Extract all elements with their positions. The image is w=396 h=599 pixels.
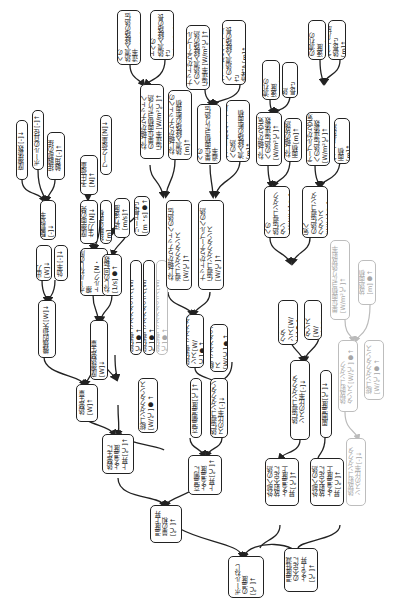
node-preload: 予圧荷重 [N]↑ — [80, 155, 98, 195]
node-heat-cond-a: 熱伝導コンダクタンス [W/℃]●↑ — [130, 260, 142, 355]
node-screw-flow: ねじ軸への流れの 速度 [m/s]↑ — [262, 60, 280, 100]
node-screw-rad-area: ねじ軸の放熱 面積 [m]↑ — [284, 118, 302, 162]
node-lead: リード長さ [m・s]●↑ — [134, 196, 150, 236]
node-total-cond3: 総コンダクタンス [W/℃]●↑ — [304, 300, 322, 340]
node-ball-dia: ボールの直径 [-]↑ — [32, 110, 44, 170]
node-nut-table-len: ナットからテーブル への熱流入経路の長さ (厚さ) [m]↑ — [222, 20, 246, 85]
node-faint-total: 総コンダクタンス [W/℃]●↑ — [364, 340, 384, 400]
node-faint-rad-cond: 熱放射コンダク タンス [W/℃]●↑ — [338, 340, 358, 412]
node-faint-unit-coef: 単位面積当たり熱放射率 [W/m²℃]↑ — [330, 240, 350, 320]
node-heat-cond-e: 熱伝導コンダクタ ンス [W/℃]●↑ — [278, 300, 298, 345]
node-work-load: ワーク荷重 [N]↓ — [100, 115, 112, 175]
node-friction-force: 摩擦面の発 生力 [N]↓ — [80, 200, 98, 244]
node-screw-nut-area: ねじ軸からナットへの 熱流入経路の断面積 [m]↑ — [168, 90, 192, 160]
node-nut-table-cond: ナットからテーブルへの熱 伝導コンダクタンス [W/℃]↑ — [198, 200, 224, 290]
node-drive-eff: 駆動効率 [-]↓ — [40, 200, 56, 240]
node-heat-total: 熱発生量 [W]↑ — [76, 384, 98, 422]
node-label: ボールねじ の温度 [℃]↑ — [235, 559, 258, 595]
node-temp-rise-heatconst: 温度低減 の不足に よる上昇 [℃]↑ — [284, 548, 318, 592]
node-high-temp-side: 高温側温度 [℃]↑ — [190, 378, 202, 438]
node-power-out: 出力 [W]↓ — [36, 245, 52, 281]
node-nut-table-area: ナットからテーブルへの熱 流入経路の断面積 [m]↑ — [226, 100, 250, 162]
node-heat-gen-rise: 熱発生に よる温度 上昇 [℃]↑ — [102, 434, 134, 474]
node-contact-area: 接触の面積 [m] — [100, 200, 112, 244]
node-table-flow: テーブルへの流れの 速度 [m/s]↑ — [308, 20, 326, 60]
node-contact-wrap: 接触部の接 触角 [-]↑ — [47, 132, 65, 180]
node-nut-table-coef: ナットからテーブルへの 単位面積当たり熱伝導率 [W/m²℃]↑ — [197, 104, 221, 164]
node-total-cond: 総コンダクタンス [W/℃]●↑ — [138, 378, 158, 433]
node-efficiency: 効率 [-]↓ — [54, 245, 68, 281]
root-node-ballscrew-temp: ボールねじ の温度 [℃]↑ — [228, 556, 264, 598]
node-ext-heat-rise-2: 外部への熱 放射不足に よる温度上 昇 [℃]↑ — [310, 458, 344, 506]
node-feed-speed: 送り速度 [m/s]↑ — [114, 198, 130, 238]
node-cond-ratio: 熱伝導コンダクタンスの比率 [-]↓ — [210, 378, 228, 438]
node-total-cond2: 総コンダクタンス [W/℃]●↑ — [210, 324, 228, 372]
node-heat-cond-d: 熱伝導コンダクタ ンス [W/℃]●↑ — [186, 314, 204, 368]
node-table-air-cond: テーブルから空気へ の熱伝導コンダクタンス [W/℃]●↑ — [302, 186, 328, 238]
node-ext-heat-rise-1: 外部への熱 放射不足に よる温度上 昇 [℃]↑ — [265, 458, 299, 506]
node-faint-area: 放熱面積 [m]●↑ — [358, 260, 376, 305]
node-table-rad-len: テーブル放熱長さ [m]↑ — [328, 20, 346, 60]
node-screw-nut-coef: ねじ軸からナットへ の単位面積当たり熱 伝達率 [W/m²℃]↑ — [140, 84, 164, 159]
node-rad-cond-ratio: 熱伝導コンダクタ ンスの比率 [-]↓ — [290, 360, 310, 440]
node-table-rad-area: テーブル放熱面積 [m]↑ — [334, 118, 350, 164]
node-heat-cond-b: 熱伝導コンダクタンス [W/℃]●↑ — [143, 260, 155, 355]
node-table-air-coef: テーブルから空気 への熱伝達係数 [W/m²℃]↑ — [306, 112, 330, 166]
node-ambient-temp: 周囲温度 [℃]↓ — [320, 370, 332, 438]
node-screw-nut-len: ねじ軸からナットへの 熱流入経路の長さ (厚さ) [m]↑ — [150, 10, 174, 60]
factor-tree-diagram: ボールねじ の温度 [℃]↑ 温度上昇 量の和 [℃]↑ 温度低減 の不足に よ… — [0, 0, 396, 599]
node-screw-air-cond: ねじ軸から空気への 熱伝導コンダクタン ス [W/℃]●↑ — [264, 186, 290, 238]
node-friction-heat: 摩擦熱発生量 [W]↓ — [90, 320, 108, 380]
node-faint-ratio: 熱放射コンダクタ ンスの比率 [-]↓ — [346, 438, 366, 506]
node-screw-nut-cond: ねじ軸からナットへの熱伝 導コンダクタンス [W/℃]↑ — [166, 200, 192, 290]
node-nut-table-coef2: ナットからテーブル への熱流入経路の熱 伝達率 [W/m²℃]↑ — [186, 25, 210, 90]
node-temp-rise-sum: 温度上昇 量の和 [℃]↑ — [150, 505, 182, 543]
node-friction-coef: 摩擦係数 [-]↓ — [16, 120, 28, 180]
node-screw-rpm: ねじの回転数 [1/s]●↑ — [102, 254, 122, 296]
node-high-temp-rise: 高温側に よる温度 上昇 [℃]↑ — [188, 455, 222, 495]
node-loss-heat: 機械的損失 [W]↓ — [38, 300, 56, 358]
node-screw-rad-len: ねじ軸の放熱 長さ [m]↑ — [282, 62, 298, 98]
node-screw-nut-coef2: ねじ軸からナットへの 熱流入経路の熱伝達率 [W/m²℃]↑ — [117, 10, 141, 65]
node-screw-air-coef: ねじ軸から空気 への熱伝達係数 [W/m²℃]↑ — [256, 112, 282, 166]
